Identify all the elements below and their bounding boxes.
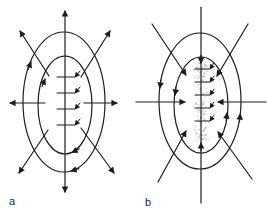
stipple-dot bbox=[195, 90, 196, 91]
stipple-dot bbox=[198, 86, 199, 87]
stipple-dot bbox=[198, 129, 200, 131]
stipple-dot bbox=[197, 70, 199, 72]
panel-b-label: b bbox=[145, 196, 151, 208]
stipple-dot bbox=[196, 139, 197, 140]
stipple-dot bbox=[198, 84, 200, 86]
stipple-dot bbox=[202, 138, 203, 139]
stipple-dot bbox=[195, 102, 196, 103]
stipple-dot bbox=[196, 137, 197, 138]
stipple-dot bbox=[197, 64, 198, 65]
diagonal-arrow-top-right-inward bbox=[217, 24, 248, 76]
stipple-dot bbox=[202, 104, 204, 106]
stipple-dot bbox=[195, 104, 196, 105]
rotation-arrowhead-inner-right-up bbox=[226, 113, 227, 121]
crack-tick-half-arrow bbox=[210, 63, 214, 69]
diagram-canvas: a bbox=[0, 0, 267, 217]
stipple-dot bbox=[202, 136, 203, 137]
panel-a: a bbox=[9, 11, 117, 207]
outer-ellipse bbox=[23, 32, 105, 172]
stipple-dot bbox=[202, 109, 204, 111]
stipple-dot bbox=[204, 134, 206, 136]
stipple-dot bbox=[196, 87, 197, 88]
stipple-dot bbox=[202, 111, 204, 113]
stipple-dot bbox=[199, 106, 200, 107]
stipple-dot bbox=[198, 137, 199, 138]
diagonal-arrow-bottom-left-outward bbox=[19, 130, 48, 173]
stipple-dot bbox=[195, 105, 196, 106]
rotation-arrowhead-outer-bottom bbox=[71, 169, 79, 171]
stipple-dot bbox=[204, 116, 205, 117]
stipple-dot bbox=[204, 130, 205, 131]
rotation-arrowhead-outer-right-up bbox=[239, 114, 240, 122]
rotation-arrowhead-outer-left-down bbox=[160, 80, 161, 88]
stipple-dot bbox=[202, 124, 203, 125]
stipple-dot bbox=[199, 77, 200, 78]
stipple-dot bbox=[197, 110, 199, 112]
stipple-dot bbox=[204, 93, 205, 94]
stipple-dot bbox=[207, 67, 209, 69]
stipple-dot bbox=[208, 111, 209, 112]
stipple-dot bbox=[196, 132, 197, 133]
stipple-dot bbox=[205, 139, 206, 140]
stipple-dot bbox=[203, 92, 205, 94]
stipple-dot bbox=[198, 63, 199, 64]
stipple-dot bbox=[204, 122, 205, 123]
stipple-dot bbox=[203, 113, 205, 115]
stipple-dot bbox=[205, 73, 206, 74]
stipple-dot bbox=[202, 131, 203, 132]
stipple-dot bbox=[197, 129, 198, 130]
stipple-dot bbox=[197, 116, 199, 118]
stipple-dot bbox=[202, 101, 204, 103]
stipple-dot bbox=[198, 110, 200, 112]
stipple-dot bbox=[206, 71, 207, 72]
stipple-dot bbox=[199, 98, 200, 99]
stipple-dot bbox=[199, 82, 200, 83]
stipple-dot bbox=[196, 62, 197, 63]
stipple-dot bbox=[204, 137, 206, 139]
stipple-dot bbox=[206, 92, 208, 94]
diagonal-arrow-bottom-right-outward bbox=[81, 128, 114, 173]
crack-tick-half-arrow bbox=[210, 89, 214, 95]
stipple-dot bbox=[205, 96, 207, 98]
stipple-dot bbox=[199, 113, 200, 114]
stipple-dot bbox=[204, 87, 206, 89]
diagonal-arrow-top-left-outward bbox=[20, 31, 49, 76]
crack-tick-half-arrow bbox=[75, 87, 80, 93]
stipple-dot bbox=[200, 132, 201, 133]
stipple-dot bbox=[203, 102, 204, 103]
stipple-dot bbox=[196, 126, 197, 127]
crack-tick-half-arrow bbox=[210, 76, 214, 82]
stipple-dot bbox=[196, 103, 198, 105]
stipple-dot bbox=[203, 76, 204, 77]
stipple-dot bbox=[202, 66, 203, 67]
stipple-dot bbox=[195, 133, 197, 135]
stipple-dot bbox=[202, 99, 203, 100]
diagonal-arrow-bottom-left-inward bbox=[158, 131, 186, 182]
stipple-dot bbox=[198, 87, 199, 88]
stipple-dot bbox=[197, 93, 198, 94]
stipple-dot bbox=[205, 101, 206, 102]
crack-tick-half-arrow bbox=[210, 102, 214, 108]
stipple-dot bbox=[195, 127, 197, 129]
stipple-dot bbox=[204, 98, 205, 99]
panel-a-label: a bbox=[9, 195, 16, 207]
stipple-dot bbox=[199, 134, 201, 136]
stipple-dot bbox=[198, 104, 200, 106]
stipple-dot bbox=[207, 84, 208, 85]
two-panel-ellipse-arrow-diagram: a bbox=[0, 0, 267, 217]
stipple-dot bbox=[207, 71, 208, 72]
stipple-dot bbox=[205, 127, 206, 128]
stipple-dot bbox=[193, 106, 194, 107]
stipple-dot bbox=[206, 67, 207, 68]
rotation-arrowhead-inner-left-up bbox=[42, 79, 45, 87]
stipple-dot bbox=[208, 101, 210, 103]
stipple-dot bbox=[202, 117, 204, 119]
stipple-dot bbox=[204, 100, 205, 101]
stipple-dot bbox=[194, 78, 195, 79]
stipple-dot bbox=[199, 66, 200, 67]
stipple-dot bbox=[198, 119, 199, 120]
stipple-dot bbox=[196, 78, 197, 79]
stipple-dot bbox=[205, 65, 206, 66]
stipple-dot bbox=[204, 84, 205, 85]
stipple-dot bbox=[195, 141, 196, 142]
